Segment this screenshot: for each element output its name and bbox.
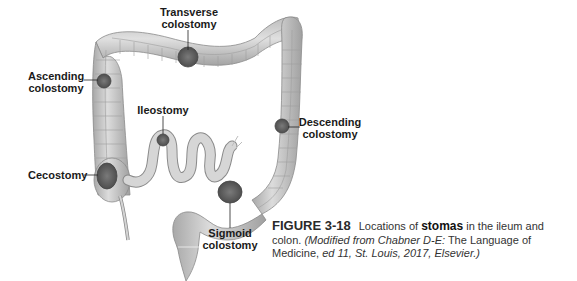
label-line: Transverse [158, 6, 220, 18]
stoma-descending [275, 119, 289, 133]
label-line: Ascending [28, 70, 84, 82]
stoma-ascending [97, 74, 111, 88]
caption-source: ed 11, St. Louis, 2017, Elsevier.) [319, 247, 480, 259]
figure-number: FIGURE 3-18 [272, 218, 351, 233]
label-line: colostomy [28, 82, 84, 94]
stoma-ileostomy [157, 134, 169, 146]
stoma-cecostomy [97, 163, 117, 189]
caption-source: (Modified from Chabner D-E: [304, 234, 445, 246]
label-descending-colostomy: Descending colostomy [298, 116, 362, 140]
label-line: colostomy [200, 239, 260, 251]
caption-text: Locations of [359, 220, 421, 232]
label-line: Descending [298, 116, 362, 128]
label-ileostomy: Ileostomy [136, 104, 190, 116]
stoma-sigmoid [218, 181, 242, 203]
figure-caption: FIGURE 3-18Locations of stomas in the il… [272, 219, 572, 261]
label-line: colostomy [298, 128, 362, 140]
label-sigmoid-colostomy: Sigmoid colostomy [200, 227, 260, 251]
label-cecostomy: Cecostomy [28, 169, 86, 181]
label-line: colostomy [158, 18, 220, 30]
ileum [128, 135, 242, 182]
caption-keyword: stomas [421, 219, 463, 233]
label-line: Cecostomy [28, 169, 86, 181]
label-line: Ileostomy [136, 104, 190, 116]
label-ascending-colostomy: Ascending colostomy [28, 70, 84, 94]
label-transverse-colostomy: Transverse colostomy [158, 6, 220, 30]
stoma-locations-figure: Transverse colostomy Ascending colostomy… [0, 0, 577, 281]
label-line: Sigmoid [200, 227, 260, 239]
